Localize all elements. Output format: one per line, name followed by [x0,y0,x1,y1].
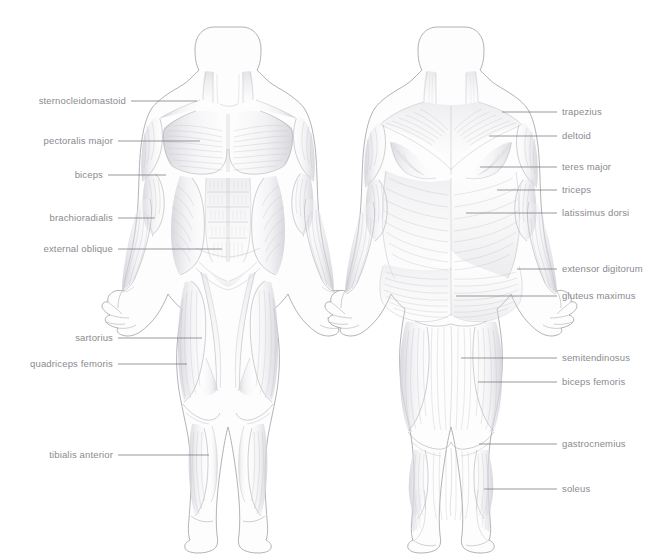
muscular-system-diagram: sternocleidomastoid pectoralis major bic… [0,0,651,560]
label-text-sartorius: sartorius [75,332,113,343]
label-text-gastrocnemius: gastrocnemius [562,438,626,449]
label-text-sternocleidomastoid: sternocleidomastoid [39,95,126,106]
label-text-triceps: triceps [562,184,591,195]
label-text-deltoid: deltoid [562,130,591,141]
latissimus-dorsi-muscle [382,170,521,279]
label-text-latissimus-dorsi: latissimus dorsi [562,207,629,218]
label-text-gluteus-maximus: gluteus maximus [562,290,636,301]
label-text-trapezius: trapezius [562,106,602,117]
label-text-tibialis-anterior: tibialis anterior [49,449,113,460]
label-text-external-oblique: external oblique [44,243,113,254]
label-text-semitendinosus: semitendinosus [562,352,630,363]
label-text-extensor-digitorum: extensor digitorum [562,263,643,274]
label-text-teres-major: teres major [562,161,611,172]
label-text-pectoralis-major: pectoralis major [44,135,113,146]
rectus-abdominis-muscle [205,178,251,262]
label-text-soleus: soleus [562,483,590,494]
label-text-brachioradialis: brachioradialis [49,212,113,223]
label-text-biceps: biceps [75,169,103,180]
label-text-quadriceps-femoris: quadriceps femoris [30,358,113,369]
label-text-biceps-femoris: biceps femoris [562,376,625,387]
